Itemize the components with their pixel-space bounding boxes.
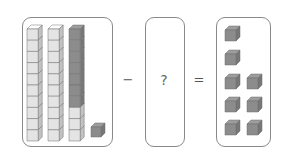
- rod-3-cube: [69, 130, 80, 141]
- rod-3-cube: [69, 74, 80, 85]
- result-unit-cube: [225, 101, 236, 112]
- rod-2-cube: [48, 29, 59, 40]
- minus-sign: −: [121, 73, 135, 86]
- rod-1-cube: [27, 51, 38, 62]
- unknown-question-mark: ?: [154, 72, 174, 88]
- rod-2-cube: [48, 85, 59, 96]
- rod-1-cube: [27, 74, 38, 85]
- rod-3-cube: [69, 51, 80, 62]
- result-unit-cube: [247, 101, 258, 112]
- unit-cube: [91, 127, 101, 137]
- rod-2-cube: [48, 119, 59, 130]
- rod-2-cube: [48, 74, 59, 85]
- equals-sign: =: [192, 73, 206, 86]
- rod-2-cube: [48, 63, 59, 74]
- rod-3-cube: [69, 63, 80, 74]
- rod-2-cube: [48, 51, 59, 62]
- base-ten-blocks: [0, 0, 286, 159]
- rod-3-cube: [69, 96, 80, 107]
- rod-3-cube: [69, 29, 80, 40]
- rod-1-cube: [27, 119, 38, 130]
- rod-1-cube: [27, 107, 38, 118]
- rod-2-cube: [48, 107, 59, 118]
- result-unit-cube: [225, 30, 236, 41]
- rod-3-cube: [69, 85, 80, 96]
- result-unit-cube: [247, 124, 258, 135]
- rod-1-cube: [27, 85, 38, 96]
- rod-1-cube: [27, 96, 38, 107]
- result-unit-cube: [247, 78, 258, 89]
- rod-1-cube: [27, 40, 38, 51]
- rod-3-cube: [69, 119, 80, 130]
- result-unit-cube: [225, 78, 236, 89]
- rod-1-cube: [27, 63, 38, 74]
- rod-2-cube: [48, 40, 59, 51]
- rod-1-cube: [27, 130, 38, 141]
- result-unit-cube: [225, 54, 236, 65]
- rod-2-cube: [48, 130, 59, 141]
- rod-3-cube: [69, 107, 80, 118]
- rod-2-cube: [48, 96, 59, 107]
- rod-1-cube: [27, 29, 38, 40]
- result-unit-cube: [225, 124, 236, 135]
- rod-3-cube: [69, 40, 80, 51]
